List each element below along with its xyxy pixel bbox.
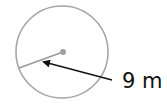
pointer-arrow	[44, 62, 112, 80]
radius-label: 9 m	[122, 69, 163, 93]
circle-diagram: 9 m	[0, 0, 167, 105]
center-dot	[60, 49, 66, 55]
